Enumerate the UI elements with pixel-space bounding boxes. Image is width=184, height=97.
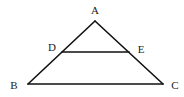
label-c: C <box>171 79 178 91</box>
label-a: A <box>91 4 99 16</box>
label-b: B <box>10 79 17 91</box>
label-d: D <box>48 41 56 53</box>
triangle-diagram: A B C D E <box>0 0 184 97</box>
label-e: E <box>138 43 145 55</box>
